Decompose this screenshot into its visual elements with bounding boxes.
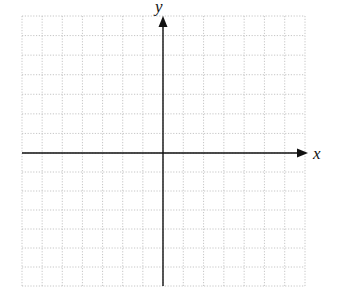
x-axis-arrow-icon bbox=[297, 149, 308, 158]
y-axis-label: y bbox=[153, 0, 163, 16]
coordinate-plane: x y bbox=[0, 0, 348, 304]
x-axis-label: x bbox=[312, 144, 321, 163]
y-axis-arrow-icon bbox=[159, 16, 168, 27]
